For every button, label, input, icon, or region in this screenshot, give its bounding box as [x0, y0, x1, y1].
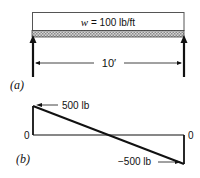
figure-b-label: (b)	[16, 152, 30, 166]
span-label: 10′	[102, 57, 116, 69]
min-shear-label: −500 lb	[118, 156, 152, 167]
left-zero-label: 0	[24, 130, 30, 141]
beam	[32, 31, 184, 38]
figure-b-shear-diagram: 0 0 500 lb −500 lb (b)	[16, 100, 194, 167]
right-zero-label: 0	[188, 130, 194, 141]
right-reaction-arrow-icon	[181, 35, 188, 77]
max-shear-label: 500 lb	[62, 100, 90, 111]
beam-diagram: w = 100 lb/ft 10′ (a)	[0, 0, 200, 178]
figure-a-label: (a)	[10, 78, 24, 92]
span-dimension: 10′	[35, 57, 182, 69]
left-reaction-arrow-icon	[30, 35, 37, 77]
figure-a: w = 100 lb/ft 10′ (a)	[10, 13, 188, 93]
load-label: w = 100 lb/ft	[81, 16, 136, 28]
